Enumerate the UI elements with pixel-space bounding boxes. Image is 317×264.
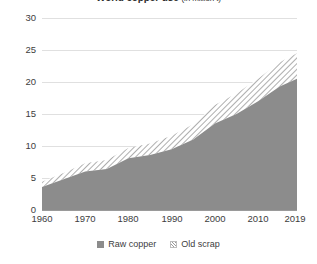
legend-swatch-icon [97,241,104,248]
legend-item-raw-copper[interactable]: Raw copper [97,240,156,249]
x-tick-label: 1980 [117,213,138,224]
chart-legend: Raw copper Old scrap [0,240,317,249]
chart-title: World copper use (in million t) [0,0,317,3]
x-tick-label: 1960 [31,213,52,224]
y-tick-label: 25 [10,45,36,55]
legend-item-old-scrap[interactable]: Old scrap [170,240,220,249]
x-tick-label: 2010 [247,213,268,224]
x-tick-label: 1990 [161,213,182,224]
series-plot [42,18,297,210]
y-tick-label: 5 [10,173,36,183]
y-tick-label: 10 [10,141,36,151]
legend-label: Raw copper [108,240,156,249]
chart-container: World copper use (in million t) 30 25 20… [0,0,317,264]
y-tick-label: 30 [10,13,36,23]
x-tick-label: 2019 [284,213,305,224]
y-tick-label: 20 [10,77,36,87]
y-axis: 30 25 20 15 10 5 0 [8,18,36,210]
y-tick-label: 15 [10,109,36,119]
x-tick-label: 1970 [74,213,95,224]
chart-title-main: World copper use [96,0,179,3]
plot-area [42,18,297,210]
chart-title-unit: (in million t) [181,0,221,3]
legend-swatch-icon [170,241,177,248]
x-tick-label: 2000 [204,213,225,224]
legend-label: Old scrap [181,240,220,249]
x-axis-line [42,210,297,211]
x-axis: 1960 1970 1980 1990 2000 2010 2019 [42,213,297,227]
